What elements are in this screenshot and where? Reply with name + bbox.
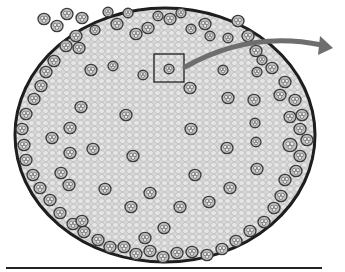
vascular-bundle <box>60 40 72 51</box>
vascular-bundle <box>118 241 130 252</box>
vascular-bundle <box>252 67 262 77</box>
vascular-bundle <box>125 201 137 212</box>
vascular-bundle <box>73 42 85 53</box>
vascular-bundle <box>164 13 176 24</box>
vascular-bundle <box>111 18 123 29</box>
vascular-bundle <box>157 251 169 262</box>
vascular-bundle <box>230 235 242 246</box>
vascular-bundle <box>76 12 88 23</box>
vascular-bundle <box>289 94 301 105</box>
vascular-bundle <box>164 64 174 74</box>
vascular-bundle <box>296 109 308 120</box>
vascular-bundle <box>279 174 291 185</box>
vascular-bundle <box>284 111 296 122</box>
vascular-bundle <box>20 154 32 165</box>
vascular-bundle <box>223 33 233 43</box>
stem-cross-section-figure <box>0 0 345 272</box>
vascular-bundle <box>248 94 260 105</box>
vascular-bundle <box>18 139 30 150</box>
vascular-bundle <box>64 122 76 133</box>
vascular-bundle <box>186 24 196 34</box>
vascular-bundle <box>70 30 82 41</box>
vascular-bundle <box>44 194 56 205</box>
vascular-bundle <box>103 7 113 17</box>
vascular-bundle <box>174 201 186 212</box>
vascular-bundle <box>87 143 99 154</box>
vascular-bundle <box>216 243 228 254</box>
vascular-bundle <box>92 234 104 245</box>
vascular-bundle <box>108 61 118 71</box>
vascular-bundle <box>20 108 32 119</box>
vascular-bundle <box>171 247 183 258</box>
vascular-bundle <box>251 137 261 147</box>
vascular-bundle <box>76 215 88 226</box>
vascular-bundle <box>144 187 156 198</box>
vascular-bundle <box>294 150 306 161</box>
vascular-bundle <box>64 147 76 158</box>
vascular-bundle <box>78 226 90 237</box>
vascular-bundle <box>176 8 186 18</box>
vascular-bundle <box>34 182 46 193</box>
vascular-bundle <box>301 134 313 145</box>
vascular-bundle <box>283 138 297 151</box>
vascular-bundle <box>63 179 75 190</box>
vascular-bundle <box>38 13 50 24</box>
vascular-bundle <box>85 64 97 75</box>
vascular-bundle <box>201 249 213 260</box>
vascular-bundle <box>250 118 260 128</box>
vascular-bundle <box>205 31 215 41</box>
vascular-bundle <box>142 22 154 33</box>
vascular-bundle <box>257 55 267 65</box>
vascular-bundle <box>266 62 278 73</box>
vascular-bundle <box>27 169 39 180</box>
vascular-bundle <box>158 222 170 233</box>
vascular-bundle <box>138 70 148 80</box>
vascular-bundle <box>130 248 142 259</box>
vascular-bundle <box>61 8 73 19</box>
vascular-bundle <box>75 101 87 112</box>
vascular-bundle <box>99 183 111 194</box>
vascular-bundle <box>258 216 270 227</box>
vascular-bundle <box>40 66 52 77</box>
vascular-bundle <box>55 167 67 178</box>
vascular-bundle <box>46 132 58 143</box>
vascular-bundle <box>279 76 291 87</box>
vascular-bundle <box>184 82 196 93</box>
vascular-bundle <box>218 65 228 75</box>
vascular-bundle <box>130 28 142 39</box>
vascular-bundle <box>139 232 151 243</box>
vascular-bundle <box>104 241 116 252</box>
vascular-bundle <box>90 25 100 35</box>
vascular-bundle <box>144 245 156 256</box>
vascular-bundle <box>224 182 236 193</box>
vascular-bundle <box>221 142 233 153</box>
vascular-bundle <box>127 150 139 161</box>
vascular-bundle <box>290 165 302 176</box>
vascular-bundle <box>274 89 286 100</box>
vascular-bundle <box>153 11 163 21</box>
vascular-bundle <box>48 55 60 66</box>
vascular-bundle <box>123 8 133 18</box>
vascular-bundle <box>120 109 132 120</box>
vascular-bundle <box>242 30 254 41</box>
vascular-bundle <box>189 169 201 180</box>
vascular-bundle <box>199 18 211 29</box>
vascular-bundle <box>294 123 306 134</box>
vascular-bundle <box>275 190 287 201</box>
vascular-bundle <box>28 93 40 104</box>
vascular-bundle <box>222 92 234 103</box>
vascular-bundle <box>203 196 215 207</box>
vascular-bundle <box>16 123 28 134</box>
vascular-bundle <box>244 225 256 236</box>
vascular-bundle <box>232 15 244 26</box>
vascular-bundle <box>185 123 197 134</box>
vascular-bundle <box>251 163 263 174</box>
vascular-bundle <box>54 207 66 218</box>
vascular-bundle <box>186 246 198 257</box>
vascular-bundle <box>268 202 280 213</box>
vascular-bundle <box>35 80 47 91</box>
vascular-bundle <box>51 20 63 31</box>
